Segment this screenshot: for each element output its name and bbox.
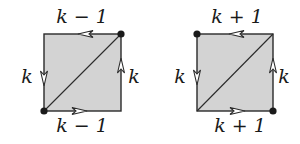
diagram-canvas: k − 1 k − 1 k k k + 1 k + 1 k k xyxy=(0,0,300,144)
left-square-top-label: k − 1 xyxy=(56,5,108,27)
left-square-figure: k − 1 k − 1 k k xyxy=(21,5,140,136)
left-square-vertex-top-right xyxy=(117,30,124,37)
right-square-bottom-label: k + 1 xyxy=(214,114,266,136)
right-square-vertex-bottom-right xyxy=(269,107,276,114)
left-square-left-label: k xyxy=(21,65,33,87)
right-square-top-label: k + 1 xyxy=(211,5,263,27)
left-square-right-label: k xyxy=(128,65,140,87)
right-square-figure: k + 1 k + 1 k k xyxy=(174,5,290,136)
right-square-left-label: k xyxy=(174,65,186,87)
left-square-vertex-bottom-left xyxy=(40,107,47,114)
right-square-right-label: k xyxy=(278,65,290,87)
right-square-vertex-top-left xyxy=(193,30,200,37)
left-square-bottom-label: k − 1 xyxy=(56,114,108,136)
